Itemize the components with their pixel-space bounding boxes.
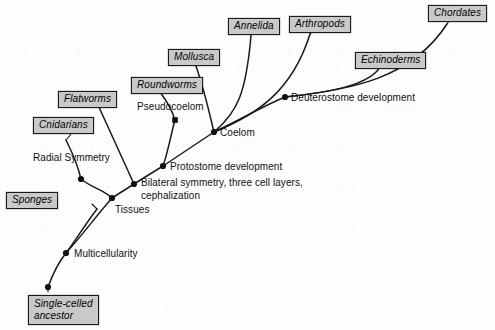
branch-mollusca <box>196 66 214 132</box>
taxon-label-single-celled-ancestor-line1: Single-celled <box>34 298 93 309</box>
taxon-box-arthropods[interactable]: Arthropods <box>289 16 351 33</box>
taxon-box-flatworms[interactable]: Flatworms <box>58 91 117 108</box>
node-pseudocoelom-marker <box>172 117 178 123</box>
taxon-box-chordates[interactable]: Chordates <box>428 5 487 22</box>
node-deuterostome-marker <box>282 94 288 100</box>
taxon-label-arthropods: Arthropods <box>295 18 345 29</box>
taxon-label-roundworms: Roundworms <box>137 79 197 90</box>
taxon-label-mollusca: Mollusca <box>174 51 214 62</box>
taxon-box-sponges[interactable]: Sponges <box>6 192 58 209</box>
node-radial-symmetry-marker <box>78 176 84 182</box>
branch-cnidarians <box>81 179 112 198</box>
trait-label-radial-symmetry: Radial Symmetry <box>33 152 110 164</box>
branch-sponges <box>66 209 97 253</box>
node-multicellularity-marker <box>63 250 69 256</box>
node-tissues-marker <box>109 195 115 201</box>
taxon-label-chordates: Chordates <box>434 7 481 18</box>
node-bilateral-symmetry-marker <box>131 181 137 187</box>
taxon-box-annelida[interactable]: Annelida <box>228 18 280 35</box>
taxon-box-roundworms[interactable]: Roundworms <box>131 77 203 94</box>
taxon-label-sponges: Sponges <box>12 194 52 205</box>
node-coelom-marker <box>211 129 217 135</box>
phylogeny-diagram: Single-celledancestor Sponges Cnidarians… <box>0 0 495 330</box>
trait-label-pseudocoelom: Pseudocoelom <box>137 101 204 113</box>
node-protostome-marker <box>160 163 166 169</box>
branch-tissues-to-bilateral <box>112 184 134 198</box>
leader-sponges <box>92 204 97 209</box>
taxon-box-mollusca[interactable]: Mollusca <box>168 49 220 66</box>
trait-label-deuterostome-development: Deuterostome development <box>291 92 415 104</box>
trait-label-protostome-development: Protostome development <box>170 161 282 173</box>
trait-label-coelom: Coelom <box>220 127 255 139</box>
taxon-label-flatworms: Flatworms <box>64 93 111 104</box>
branch-root-to-multicellularity <box>48 253 66 287</box>
taxon-label-cnidarians: Cnidarians <box>39 119 88 130</box>
taxon-box-single-celled-ancestor[interactable]: Single-celledancestor <box>28 295 99 325</box>
taxon-label-single-celled-ancestor-line2: ancestor <box>34 310 73 321</box>
trait-label-bilateral-symmetry: Bilateral symmetry, three cell layers, c… <box>141 177 309 202</box>
taxon-label-annelida: Annelida <box>234 20 274 31</box>
trait-label-tissues: Tissues <box>115 204 149 216</box>
branch-flatworms <box>98 105 134 184</box>
leader-cnidarians <box>66 133 72 140</box>
node-root-marker <box>45 284 51 290</box>
taxon-box-cnidarians[interactable]: Cnidarians <box>33 117 94 134</box>
taxon-label-echinoderms: Echinoderms <box>361 54 420 65</box>
taxon-box-echinoderms[interactable]: Echinoderms <box>355 52 426 69</box>
trait-label-multicellularity: Multicellularity <box>74 248 138 260</box>
